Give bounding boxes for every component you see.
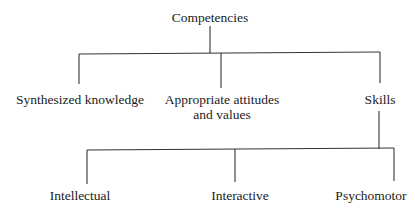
node-appropriate-attitudes-line1: Appropriate attitudes (165, 92, 279, 107)
node-skills: Skills (365, 92, 396, 107)
node-intellectual: Intellectual (50, 188, 111, 203)
node-appropriate-attitudes: Appropriate attitudes and values (165, 92, 279, 122)
competencies-tree-diagram: Competencies Synthesized knowledge Appro… (0, 0, 415, 214)
node-interactive: Interactive (211, 188, 269, 203)
node-appropriate-attitudes-line2: and values (165, 107, 279, 122)
node-synthesized-knowledge: Synthesized knowledge (16, 92, 144, 107)
node-psychomotor: Psychomotor (335, 188, 406, 203)
node-competencies: Competencies (172, 10, 248, 25)
